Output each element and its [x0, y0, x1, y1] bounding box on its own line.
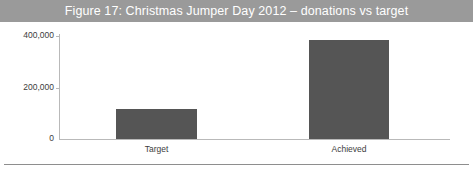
y-tick-400000: 400,000	[0, 31, 54, 41]
y-tick-mark-200000	[56, 88, 60, 89]
figure-title-band: Figure 17: Christmas Jumper Day 2012 – d…	[0, 0, 473, 22]
y-tick-label-400000: 400,000	[2, 31, 54, 40]
y-tick-label-0: 0	[2, 134, 54, 143]
y-axis-line	[59, 34, 60, 140]
y-tick-mark-400000	[56, 36, 60, 37]
x-axis-line	[59, 139, 450, 140]
x-tick-label-target: Target	[116, 145, 197, 154]
y-tick-label-200000: 200,000	[2, 83, 54, 92]
y-tick-0: 0	[0, 134, 54, 144]
bar-achieved	[309, 40, 389, 139]
chart-plot-area: 400,000 200,000 0 Target Achieved	[0, 22, 473, 171]
figure-container: Figure 17: Christmas Jumper Day 2012 – d…	[0, 0, 473, 171]
figure-title: Figure 17: Christmas Jumper Day 2012 – d…	[65, 4, 408, 18]
bottom-divider	[4, 164, 469, 165]
bar-target	[116, 109, 197, 139]
y-tick-200000: 200,000	[0, 83, 54, 93]
x-tick-label-achieved: Achieved	[309, 145, 389, 154]
